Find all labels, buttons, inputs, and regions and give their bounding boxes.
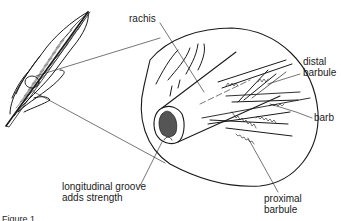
label-groove-line1: longitudinal groove (62, 181, 146, 192)
label-barb: barb (314, 112, 334, 123)
feather-diagram (0, 0, 341, 221)
zoom-leader-bottom (34, 92, 165, 163)
label-rachis: rachis (129, 13, 156, 24)
magnified-view (141, 28, 318, 186)
label-groove-line2: adds strength (62, 192, 123, 203)
leader-barb (270, 104, 312, 118)
label-proximal-barbule-line2: barbule (264, 204, 297, 215)
label-distal-barbule-line2: barbule (303, 67, 336, 78)
label-distal-barbule-line1: distal (303, 56, 326, 67)
feather-icon (6, 12, 90, 127)
leader-groove (140, 142, 162, 186)
leader-rachis (160, 23, 204, 92)
leader-distal-barbule (268, 74, 300, 84)
zoom-leader-top (36, 38, 160, 76)
figure-caption: Figure 1 ... (2, 214, 45, 221)
leader-proximal-barbule (248, 138, 278, 192)
label-proximal-barbule-line1: proximal (264, 193, 302, 204)
